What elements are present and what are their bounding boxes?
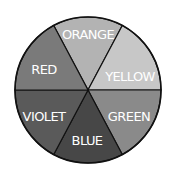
- label-orange: ORANGE: [62, 27, 114, 42]
- label-violet: VIOLET: [23, 109, 66, 124]
- label-red: RED: [31, 62, 57, 77]
- label-green: GREEN: [108, 109, 150, 124]
- label-blue: BLUE: [72, 133, 103, 148]
- color-wheel-svg: ORANGEYELLOWGREENBLUEVIOLETRED: [0, 0, 174, 184]
- label-yellow: YELLOW: [104, 69, 155, 84]
- color-wheel: ORANGEYELLOWGREENBLUEVIOLETRED: [0, 0, 174, 184]
